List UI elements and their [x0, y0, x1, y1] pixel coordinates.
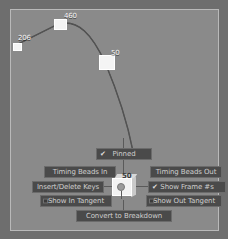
- menu-item-label: Show Out Tangent: [149, 196, 219, 206]
- keyframe-label: 50: [111, 50, 120, 57]
- keyframe-marker[interactable]: [13, 43, 22, 51]
- menu-item-label: Timing Beads In: [49, 167, 112, 177]
- animation-curve-path: [15, 23, 133, 151]
- menu-item-insert-delete-keys[interactable]: Insert/Delete Keys: [32, 181, 104, 193]
- checkmark-icon: ✔: [100, 151, 106, 157]
- menu-connector-right: [136, 186, 148, 187]
- menu-item-show-in-tangent[interactable]: Show In Tangent: [40, 195, 112, 207]
- menu-item-label: Insert/Delete Keys: [33, 182, 103, 192]
- app-root: 206 460 50 ✔ Pinned Timing Beads In Timi…: [0, 0, 228, 239]
- center-frame-label: 50: [122, 173, 132, 180]
- cube-handle-dot[interactable]: [117, 183, 125, 191]
- keyframe-cube-icon[interactable]: 50: [112, 174, 136, 200]
- keyframe-marker[interactable]: [54, 19, 67, 30]
- cube-stem: [121, 191, 122, 199]
- menu-item-label: Pinned: [108, 149, 139, 159]
- keyframe-marking-menu[interactable]: ✔ Pinned Timing Beads In Timing Beads Ou…: [0, 148, 228, 232]
- menu-item-timing-beads-out[interactable]: Timing Beads Out: [150, 166, 222, 178]
- checkbox-icon[interactable]: [149, 199, 154, 204]
- menu-item-label: Show In Tangent: [44, 196, 108, 206]
- keyframe-label: 206: [18, 35, 31, 42]
- checkmark-icon: ✔: [152, 184, 158, 190]
- keyframe-marker-selected[interactable]: [99, 55, 115, 70]
- menu-item-label: Show Frame #s: [156, 182, 217, 192]
- menu-item-show-frame-numbers[interactable]: ✔ Show Frame #s: [148, 181, 226, 193]
- checkbox-icon[interactable]: [43, 199, 48, 204]
- menu-item-label: Convert to Breakdown: [82, 211, 166, 221]
- menu-item-label: Timing Beads Out: [152, 167, 221, 177]
- menu-item-pinned[interactable]: ✔ Pinned: [96, 148, 152, 160]
- menu-item-timing-beads-in[interactable]: Timing Beads In: [44, 166, 116, 178]
- keyframe-label: 460: [64, 13, 77, 20]
- menu-item-convert-to-breakdown[interactable]: Convert to Breakdown: [76, 210, 172, 222]
- menu-item-show-out-tangent[interactable]: Show Out Tangent: [146, 195, 222, 207]
